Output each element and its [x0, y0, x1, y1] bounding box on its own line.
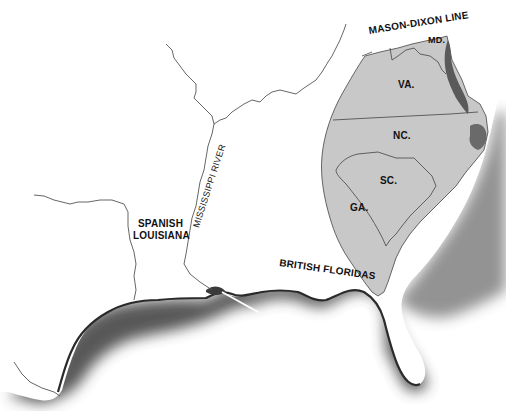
map-canvas [0, 0, 506, 411]
label-georgia: GA. [350, 203, 368, 213]
label-virginia: VA. [398, 80, 415, 90]
label-spanish-louisiana-1: SPANISH [138, 219, 183, 229]
label-spanish-louisiana-2: LOUISIANA [133, 231, 190, 241]
label-south-carolina: SC. [380, 176, 397, 186]
label-maryland: MD. [428, 36, 445, 45]
label-north-carolina: NC. [393, 131, 411, 141]
